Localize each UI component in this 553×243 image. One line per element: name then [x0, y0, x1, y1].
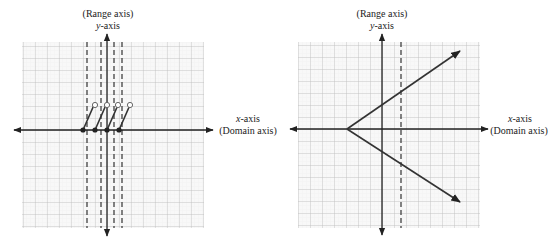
y-axis-label: y-axis: [82, 20, 134, 31]
range-axis-label: (Range axis): [72, 8, 144, 19]
x-axis-suffix: -axis: [513, 113, 532, 124]
x-axis-label: x-axis: [494, 113, 546, 124]
left-graph: (Range axis) y-axis x-axis (Domain axis): [0, 0, 280, 243]
domain-axis-label: (Domain axis): [483, 125, 553, 136]
domain-axis-label: (Domain axis): [212, 125, 284, 136]
grid: [298, 42, 480, 228]
x-axis-label: x-axis: [222, 113, 274, 124]
right-graph: (Range axis) y-axis x-axis (Domain axis): [276, 0, 553, 243]
x-axis-suffix: -axis: [241, 113, 260, 124]
y-axis-suffix: -axis: [101, 20, 120, 31]
grid: [22, 42, 204, 228]
range-axis-label: (Range axis): [346, 8, 418, 19]
y-axis-label: y-axis: [356, 20, 408, 31]
y-axis-suffix: -axis: [375, 20, 394, 31]
